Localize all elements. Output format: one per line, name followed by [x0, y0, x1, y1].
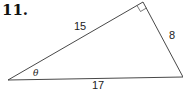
side-label-adjacent: 15 — [74, 20, 86, 32]
side-label-hypotenuse: 17 — [92, 79, 104, 91]
side-label-opposite: 8 — [169, 29, 175, 41]
angle-theta-label: θ — [33, 68, 38, 78]
